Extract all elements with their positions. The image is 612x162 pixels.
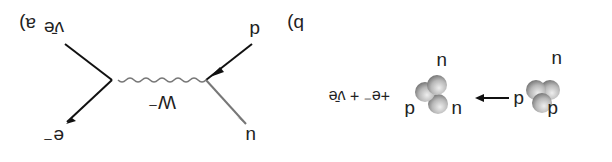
- electron-label: e⁻: [43, 127, 64, 146]
- quark-label: d: [513, 91, 524, 110]
- panel-b-label: b): [287, 15, 304, 34]
- quark-label: d: [547, 101, 558, 120]
- antineutrino-label: ν̄e: [44, 19, 64, 38]
- quark-label: u: [551, 51, 562, 70]
- panel-a-label: a): [19, 15, 36, 34]
- reaction-arrow: [475, 94, 509, 102]
- figure: a) u d d u u d +e⁻ + ν̄e b) d u W⁻ e⁻ ν̄…: [0, 0, 612, 162]
- rotated-figure: a) u d d u u d +e⁻ + ν̄e b) d u W⁻ e⁻ ν̄…: [0, 0, 612, 162]
- diagram-graphics: [0, 0, 612, 162]
- w-boson-label: W⁻: [148, 93, 176, 112]
- quark-label: d: [404, 101, 415, 120]
- final-nucleon: [415, 75, 448, 114]
- incoming-quark: d: [249, 21, 260, 40]
- quark-label: u: [436, 53, 447, 72]
- quark-label: u: [451, 101, 462, 120]
- outgoing-quark: u: [245, 127, 256, 146]
- decay-products: +e⁻ + ν̄e: [329, 88, 390, 104]
